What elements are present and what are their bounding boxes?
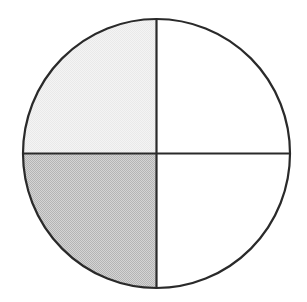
fraction-circle-diagram [0,0,307,302]
fraction-circle-figure [0,0,307,302]
